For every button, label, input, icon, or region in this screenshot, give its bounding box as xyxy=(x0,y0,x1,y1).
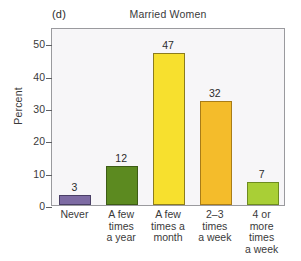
y-axis-tick-mark xyxy=(46,142,52,143)
bar xyxy=(59,195,91,205)
bar-value-label: 7 xyxy=(259,168,265,180)
bar-value-label: 12 xyxy=(115,152,127,164)
y-axis-tick-mark xyxy=(46,78,52,79)
x-axis-category-label: Never xyxy=(60,209,88,221)
bar-value-label: 32 xyxy=(209,87,221,99)
plot-area xyxy=(51,28,285,206)
bar xyxy=(247,182,279,205)
chart-title: Married Women xyxy=(51,8,285,20)
bar xyxy=(200,101,232,205)
y-axis-tick-mark xyxy=(46,175,52,176)
y-axis-tick-label: 50 xyxy=(19,38,45,50)
y-axis-tick-label: 40 xyxy=(19,71,45,83)
y-axis-tick-label: 30 xyxy=(19,103,45,115)
bar xyxy=(106,166,138,205)
y-axis-tick-mark xyxy=(46,45,52,46)
x-axis-category-label: 4 or more times a week xyxy=(242,209,281,255)
y-axis-tick-label: 0 xyxy=(19,200,45,212)
plot-inner xyxy=(52,29,284,205)
bar-value-label: 47 xyxy=(162,39,174,51)
x-axis-category-label: 2–3 times a week xyxy=(198,209,231,244)
bar xyxy=(153,53,185,205)
y-axis-tick-mark xyxy=(46,207,52,208)
y-axis-tick-label: 20 xyxy=(19,135,45,147)
x-axis-category-label: A few times a year xyxy=(107,209,136,244)
x-axis-category-label: A few times a month xyxy=(151,209,185,244)
bar-chart-figure: (d) Married Women Percent 010203040503Ne… xyxy=(0,0,301,261)
y-axis-tick-label: 10 xyxy=(19,168,45,180)
y-axis-tick-mark xyxy=(46,110,52,111)
bar-value-label: 3 xyxy=(71,181,77,193)
